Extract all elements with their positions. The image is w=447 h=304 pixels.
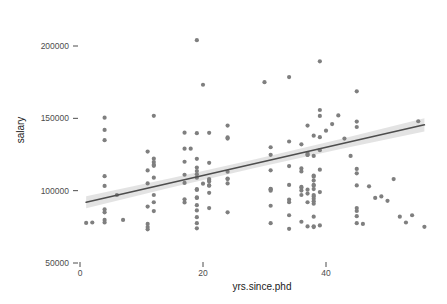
data-point [318,190,322,194]
data-point [287,200,291,204]
data-point [103,174,107,178]
data-point [404,220,408,224]
data-point [299,186,303,190]
data-point [182,173,186,177]
data-point [416,119,420,123]
data-point [269,187,273,191]
data-point [269,204,273,208]
data-point [182,160,186,164]
x-axis-tick-label: 0 [78,268,83,278]
data-point [410,213,414,217]
data-point [305,200,309,204]
data-point [262,80,266,84]
data-point [355,183,359,187]
data-point [398,215,402,219]
data-point [318,108,322,112]
data-point [84,221,88,225]
data-point [207,161,211,165]
data-point [355,209,359,213]
data-point [355,167,359,171]
data-point [318,135,322,139]
data-point [195,188,199,192]
data-point [207,206,211,210]
data-point [305,188,309,192]
data-point [299,169,303,173]
data-point [392,177,396,181]
data-point [146,204,150,208]
data-point [287,213,291,217]
data-point [422,225,426,229]
data-point [226,123,230,127]
data-point [201,83,205,87]
data-point [195,196,199,200]
data-point [312,174,316,178]
data-point [318,168,322,172]
scatter-plot-figure: 50000100000150000200000 02040 salary yrs… [0,0,447,304]
data-point [195,203,199,207]
data-point [103,207,107,211]
y-axis-tick-label: 150000 [41,113,70,123]
data-point [349,154,353,158]
y-axis-tick-label: 50000 [45,258,69,268]
data-point [207,184,211,188]
data-point [299,142,303,146]
data-point [152,176,156,180]
data-point [195,221,199,225]
data-point [299,193,303,197]
data-point [373,196,377,200]
data-point [287,227,291,231]
data-point [146,150,150,154]
data-point [146,225,150,229]
data-point [330,122,334,126]
data-point [312,202,316,206]
data-point [103,116,107,120]
chart-canvas: 50000100000150000200000 02040 salary yrs… [0,0,447,304]
data-point [189,147,193,151]
data-point [312,215,316,219]
data-point [312,194,316,198]
data-point [195,215,199,219]
data-point [201,182,205,186]
data-point [269,221,273,225]
data-point [305,224,309,228]
data-point [269,145,273,149]
data-point [182,147,186,151]
data-point [207,131,211,135]
data-point [355,119,359,123]
data-point [305,123,309,127]
data-point [207,177,211,181]
data-point [103,128,107,132]
data-point [182,131,186,135]
data-point [312,134,316,138]
data-point [361,222,365,226]
data-point [318,59,322,63]
data-point [195,131,199,135]
data-point [324,129,328,133]
data-point [355,221,359,225]
data-point [152,114,156,118]
data-point [342,136,346,140]
data-point [195,172,199,176]
data-point [152,157,156,161]
data-point [287,164,291,168]
data-point [355,125,359,129]
data-point [152,163,156,167]
data-point [226,177,230,181]
y-axis-tick-label: 200000 [41,41,70,51]
x-axis-tick-label: 40 [321,268,331,278]
x-axis-tick-label: 20 [198,268,208,278]
data-point [287,75,291,79]
data-point [385,199,389,203]
data-point [152,200,156,204]
data-point [305,191,309,195]
data-point [226,181,230,185]
data-point [312,154,316,158]
data-point [355,214,359,218]
y-axis-title: salary [15,117,26,144]
data-point [367,184,371,188]
y-axis-tick-label: 100000 [41,186,70,196]
data-point [318,114,322,118]
data-point [90,220,94,224]
data-point [103,220,107,224]
data-point [287,183,291,187]
